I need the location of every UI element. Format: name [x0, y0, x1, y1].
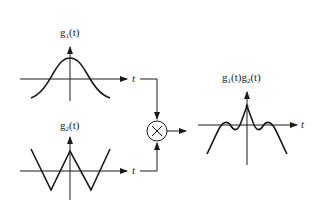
g2-label: g2(t) [60, 119, 80, 133]
product-plot: g1(t)g2(t) t [198, 71, 305, 165]
g1-label: g1(t) [60, 26, 80, 40]
product-label: g1(t)g2(t) [222, 71, 261, 85]
product-t-label: t [301, 118, 305, 130]
bottom-connector [140, 143, 157, 171]
top-connector [140, 79, 157, 119]
g1-plot: g1(t) t [20, 26, 136, 101]
signal-multiplication-diagram: g1(t) t g2(t) t g1(t)g2(t) t [0, 0, 330, 202]
multiplier-block [140, 79, 186, 171]
g2-plot: g2(t) t [20, 119, 136, 200]
product-peak-dot [246, 105, 249, 108]
g2-t-label: t [132, 164, 136, 176]
g1-t-label: t [132, 72, 136, 84]
